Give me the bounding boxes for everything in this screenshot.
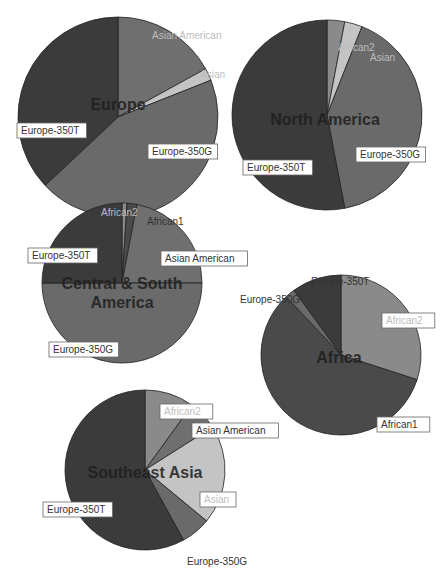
svg-text:Europe-350G: Europe-350G	[360, 149, 420, 160]
pie-chart-north-america: North AmericaAfrican2AsianEurope-350GEur…	[232, 20, 426, 210]
svg-text:Europe-350T: Europe-350T	[21, 125, 79, 136]
slice-label-europe-350g: Europe-350G	[49, 342, 119, 357]
svg-text:Europe-350G: Europe-350G	[240, 294, 300, 305]
slice-label-african2: African2	[160, 404, 213, 419]
svg-text:Europe-350T: Europe-350T	[311, 276, 369, 287]
slice-label-african1: African1	[147, 216, 184, 227]
svg-text:African1: African1	[147, 216, 184, 227]
slice-label-asian-american: Asian American	[152, 30, 221, 41]
slice-label-african2: African2	[101, 207, 138, 218]
svg-text:Asian American: Asian American	[196, 425, 265, 436]
pie-charts-canvas: EuropeAsian AmericanAsianEurope-350GEuro…	[0, 0, 441, 572]
svg-text:Europe-350T: Europe-350T	[247, 162, 305, 173]
svg-text:Europe-350T: Europe-350T	[47, 504, 105, 515]
pie-title: Central & South	[62, 275, 183, 292]
pie-chart-africa: AfricaEurope-350TEurope-350GAfrican2Afri…	[240, 275, 435, 435]
slice-label-europe-350g: Europe-350G	[148, 144, 218, 159]
svg-text:African2: African2	[164, 406, 201, 417]
slice-label-asian: Asian	[370, 52, 395, 63]
pie-title: America	[90, 294, 153, 311]
slice-label-europe-350t: Europe-350T	[311, 276, 369, 287]
slice-label-europe-350g: Europe-350G	[356, 147, 426, 162]
slice-label-asian: Asian	[200, 69, 225, 80]
pie-title: Africa	[316, 349, 361, 366]
svg-text:Europe-350G: Europe-350G	[152, 146, 212, 157]
svg-text:Europe-350G: Europe-350G	[187, 556, 247, 567]
pie-title: North America	[270, 111, 380, 128]
svg-text:African1: African1	[381, 419, 418, 430]
pie-title: Southeast Asia	[88, 464, 203, 481]
slice-label-african2: African2	[382, 313, 435, 328]
slice-label-europe-350t: Europe-350T	[243, 160, 313, 175]
slice-label-europe-350g: Europe-350G	[240, 294, 300, 305]
svg-text:African2: African2	[101, 207, 138, 218]
slice-label-asian-american: Asian American	[192, 423, 278, 438]
slice-label-europe-350t: Europe-350T	[28, 248, 98, 263]
pie-title: Europe	[90, 96, 145, 113]
pie-chart-europe: EuropeAsian AmericanAsianEurope-350GEuro…	[17, 17, 225, 217]
slice-label-europe-350t: Europe-350T	[17, 123, 87, 138]
pie-chart-central-south-america: Central & SouthAmericaAfrican2African1As…	[28, 203, 247, 363]
svg-text:African2: African2	[386, 315, 423, 326]
svg-text:Asian American: Asian American	[165, 253, 234, 264]
slice-label-europe-350g: Europe-350G	[187, 556, 247, 567]
svg-text:Asian American: Asian American	[152, 30, 221, 41]
svg-text:Asian: Asian	[204, 494, 229, 505]
pie-chart-southeast-asia: Southeast AsiaAfrican2Asian AmericanAsia…	[43, 390, 278, 567]
slice-label-asian: Asian	[200, 492, 236, 507]
svg-text:Asian: Asian	[370, 52, 395, 63]
slice-label-african1: African1	[377, 417, 430, 432]
pie-charts: EuropeAsian AmericanAsianEurope-350GEuro…	[17, 17, 435, 567]
slice-label-europe-350t: Europe-350T	[43, 502, 113, 517]
svg-text:Asian: Asian	[200, 69, 225, 80]
svg-text:Europe-350G: Europe-350G	[53, 344, 113, 355]
svg-text:Europe-350T: Europe-350T	[32, 250, 90, 261]
slice-label-asian-american: Asian American	[161, 251, 247, 266]
